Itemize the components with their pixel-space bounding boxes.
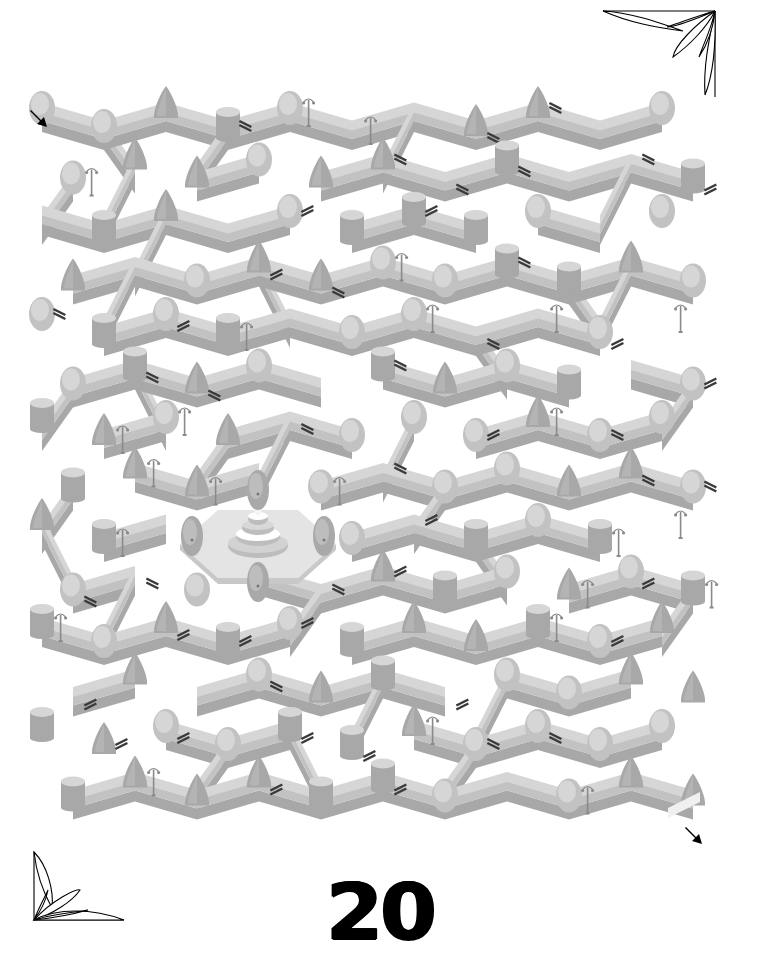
start-arrow-icon (28, 108, 50, 130)
end-arrow-icon (683, 825, 705, 847)
hedge-maze[interactable] (0, 0, 758, 961)
page-number: 20 (307, 872, 454, 952)
